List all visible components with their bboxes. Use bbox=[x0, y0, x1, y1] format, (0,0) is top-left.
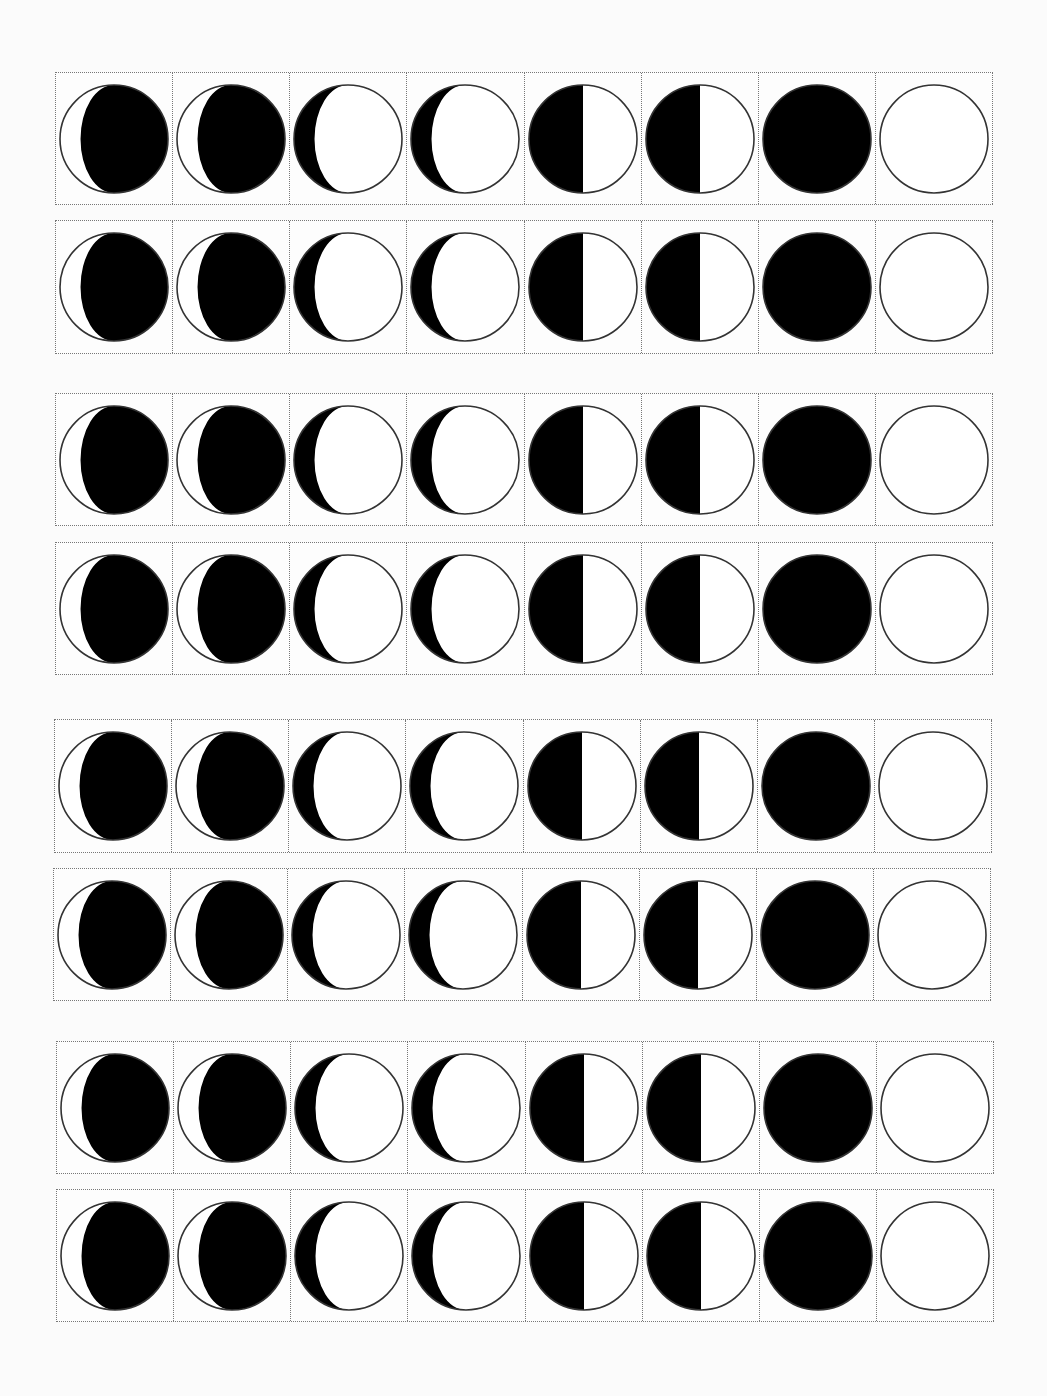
crescent-dark-icon bbox=[408, 1190, 524, 1322]
crescent-dark-icon bbox=[406, 720, 522, 852]
half-icon bbox=[643, 1042, 759, 1174]
phase-strip-6 bbox=[53, 868, 991, 1001]
phase-cell bbox=[174, 1042, 291, 1173]
phase-strip-2 bbox=[55, 220, 993, 354]
phase-cell bbox=[291, 1190, 408, 1321]
crescent-dark-icon bbox=[290, 221, 406, 353]
phase-cell bbox=[641, 720, 758, 852]
phase-cell bbox=[57, 1042, 174, 1173]
full-moon-icon bbox=[876, 543, 992, 675]
crescent-dark-icon bbox=[290, 73, 406, 205]
phase-cell bbox=[874, 869, 991, 1000]
gibbous-dark-icon bbox=[173, 543, 289, 675]
phase-cell bbox=[55, 720, 172, 852]
new-moon-icon bbox=[759, 543, 875, 675]
phase-strip-3 bbox=[55, 393, 993, 526]
crescent-dark-icon bbox=[405, 869, 521, 1001]
new-moon-icon bbox=[757, 869, 873, 1001]
half-icon bbox=[642, 221, 758, 353]
crescent-dark-icon bbox=[407, 221, 523, 353]
phase-cell bbox=[56, 394, 173, 525]
phase-cell bbox=[758, 720, 875, 852]
phase-cell bbox=[526, 1190, 643, 1321]
half-icon bbox=[641, 720, 757, 852]
phase-strip-8 bbox=[56, 1189, 994, 1322]
full-moon-icon bbox=[877, 1190, 993, 1322]
phase-cell bbox=[56, 543, 173, 674]
gibbous-dark-icon bbox=[55, 720, 171, 852]
half-icon bbox=[642, 73, 758, 205]
phase-cell bbox=[759, 73, 876, 204]
phase-cell bbox=[407, 221, 524, 353]
phase-cell bbox=[642, 73, 759, 204]
gibbous-dark-icon bbox=[173, 394, 289, 526]
gibbous-dark-icon bbox=[173, 73, 289, 205]
phase-cell bbox=[525, 221, 642, 353]
half-icon bbox=[523, 869, 639, 1001]
crescent-dark-icon bbox=[290, 394, 406, 526]
gibbous-dark-icon bbox=[171, 869, 287, 1001]
phase-cell bbox=[759, 394, 876, 525]
phase-cell bbox=[174, 1190, 291, 1321]
phase-cell bbox=[57, 1190, 174, 1321]
half-icon bbox=[525, 73, 641, 205]
phase-cell bbox=[56, 73, 173, 204]
phase-cell bbox=[173, 73, 290, 204]
half-icon bbox=[524, 720, 640, 852]
new-moon-icon bbox=[758, 720, 874, 852]
gibbous-dark-icon bbox=[174, 1190, 290, 1322]
gibbous-dark-icon bbox=[173, 221, 289, 353]
phase-cell bbox=[173, 221, 290, 353]
phase-cell bbox=[290, 221, 407, 353]
crescent-dark-icon bbox=[288, 869, 404, 1001]
phase-cell bbox=[407, 73, 524, 204]
phase-cell bbox=[759, 221, 876, 353]
phase-cell bbox=[290, 73, 407, 204]
phase-cell bbox=[876, 394, 993, 525]
crescent-dark-icon bbox=[290, 543, 406, 675]
phase-cell bbox=[643, 1042, 760, 1173]
phase-cell bbox=[54, 869, 171, 1000]
phase-cell bbox=[289, 720, 406, 852]
phase-strip-7 bbox=[56, 1041, 994, 1174]
phase-cell bbox=[288, 869, 405, 1000]
phase-cell bbox=[291, 1042, 408, 1173]
new-moon-icon bbox=[760, 1042, 876, 1174]
phase-cell bbox=[524, 720, 641, 852]
half-icon bbox=[640, 869, 756, 1001]
phase-cell bbox=[408, 1042, 525, 1173]
new-moon-icon bbox=[760, 1190, 876, 1322]
full-moon-icon bbox=[875, 720, 991, 852]
full-moon-icon bbox=[877, 1042, 993, 1174]
crescent-dark-icon bbox=[291, 1042, 407, 1174]
phase-cell bbox=[643, 1190, 760, 1321]
phase-cell bbox=[405, 869, 522, 1000]
half-icon bbox=[643, 1190, 759, 1322]
full-moon-icon bbox=[876, 221, 992, 353]
full-moon-icon bbox=[876, 73, 992, 205]
half-icon bbox=[525, 394, 641, 526]
crescent-dark-icon bbox=[408, 1042, 524, 1174]
gibbous-dark-icon bbox=[56, 73, 172, 205]
phase-cell bbox=[877, 1190, 994, 1321]
gibbous-dark-icon bbox=[56, 221, 172, 353]
phase-cell bbox=[408, 1190, 525, 1321]
phase-cell bbox=[642, 394, 759, 525]
phase-cell bbox=[290, 543, 407, 674]
phase-cell bbox=[759, 543, 876, 674]
phase-cell bbox=[406, 720, 523, 852]
half-icon bbox=[526, 1042, 642, 1174]
new-moon-icon bbox=[759, 73, 875, 205]
phase-cell bbox=[877, 1042, 994, 1173]
phase-cell bbox=[525, 73, 642, 204]
phase-cell bbox=[642, 221, 759, 353]
gibbous-dark-icon bbox=[57, 1190, 173, 1322]
phase-cell bbox=[407, 543, 524, 674]
gibbous-dark-icon bbox=[57, 1042, 173, 1174]
gibbous-dark-icon bbox=[174, 1042, 290, 1174]
phase-cell bbox=[526, 1042, 643, 1173]
crescent-dark-icon bbox=[407, 73, 523, 205]
half-icon bbox=[642, 394, 758, 526]
crescent-dark-icon bbox=[407, 543, 523, 675]
phase-cell bbox=[876, 221, 993, 353]
